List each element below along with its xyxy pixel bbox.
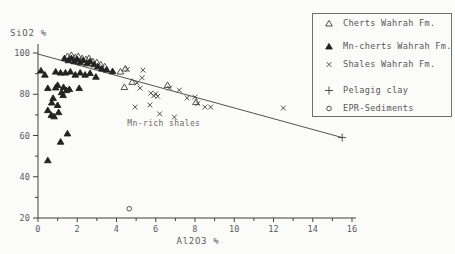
data-point-open-circle [127,206,132,211]
legend-label-epr-sediments: EPR-Sediments [343,103,414,113]
data-point-filled-triangle [77,69,84,75]
open-triangle-icon [322,17,336,29]
x-tick-label: 2 [75,224,80,234]
data-point-filled-triangle [67,68,74,74]
data-point-filled-triangle [45,85,52,91]
data-point-open-triangle [121,84,128,90]
data-point-filled-triangle [45,107,52,113]
x-tick-label: 14 [307,224,318,234]
legend-label-shales: Shales Wahrah Fm. [343,59,435,69]
legend-item-cherts: Cherts Wahrah Fm. [322,14,451,32]
y-tick-label: 60 [19,131,30,141]
x-cross-icon [322,58,336,70]
data-point-filled-triangle [57,139,64,145]
series-filled-triangle [38,55,116,163]
series-x-cross [125,67,286,119]
x-tick-label: 12 [268,224,279,234]
data-point-filled-triangle [109,68,116,74]
data-point-filled-triangle [55,109,62,115]
x-axis-title: Al2O3 % [177,236,220,246]
series-plus [338,134,346,142]
x-tick-label: 8 [192,224,197,234]
y-tick-label: 100 [14,48,30,58]
data-points-layer [38,52,347,211]
x-tick-label: 10 [229,224,240,234]
y-tick-label: 40 [19,172,30,182]
data-point-filled-triangle [38,67,45,73]
y-tick-label: 80 [19,89,30,99]
x-tick-label: 6 [153,224,158,234]
y-tick-label: 20 [19,213,30,223]
data-point-filled-triangle [64,130,71,136]
data-point-filled-triangle [93,74,100,80]
data-point-filled-triangle [50,95,57,101]
data-point-filled-triangle [45,157,52,163]
filled-triangle-icon [326,43,333,49]
legend-label-mn-cherts: Mn-cherts Wahrah Fm. [343,41,452,51]
y-axis-title: SiO2 % [10,28,47,38]
data-point-filled-triangle [76,85,83,91]
x-tick-label: 4 [114,224,119,234]
open-circle-icon [322,102,336,114]
legend-item-mn-cherts: Mn-cherts Wahrah Fm. [322,37,451,55]
open-triangle-icon [326,20,333,26]
x-tick-label: 0 [35,224,40,234]
legend-label-pelagic-clay: Pelagig clay [343,85,408,95]
x-tick-label: 16 [347,224,358,234]
plus-icon [322,84,336,96]
legend-item-pelagic-clay: Pelagig clay [322,81,451,99]
series-open-circle [127,206,132,211]
legend-box: Cherts Wahrah Fm. Mn-cherts Wahrah Fm. S… [312,13,452,117]
legend-label-cherts: Cherts Wahrah Fm. [343,18,435,28]
annotation-mn-rich-shales: Mn-rich shales [127,119,200,128]
data-point-filled-triangle [87,70,94,76]
open-circle-icon [327,106,332,111]
filled-triangle-icon [322,40,336,52]
legend-item-shales: Shales Wahrah Fm. [322,55,451,73]
legend-item-epr-sediments: EPR-Sediments [322,99,451,117]
figure-sio2-al2o3-scatter: SiO2 % 204060801000246810121416 Mn-rich … [0,0,455,254]
